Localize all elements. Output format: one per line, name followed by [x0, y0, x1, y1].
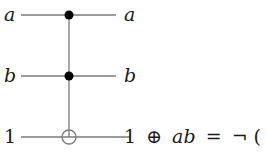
- toffoli-circuit: a b 1 a b 1 ⊕ ab = ¬ ( ab ): [0, 0, 266, 159]
- output-label-a: a: [124, 3, 135, 25]
- output-label-b: b: [124, 64, 136, 86]
- output-eq: =: [206, 125, 222, 147]
- output-oplus: ⊕: [146, 125, 162, 147]
- input-label-a: a: [4, 3, 15, 25]
- output-paren-open: (: [254, 125, 261, 147]
- input-label-b: b: [4, 64, 16, 86]
- control-dot-a: [65, 11, 74, 20]
- output-label-target: 1 ⊕ ab = ¬ ( ab ): [124, 125, 266, 147]
- control-dot-b: [65, 72, 74, 81]
- output-neg: ¬: [232, 125, 248, 147]
- input-label-1: 1: [4, 125, 16, 147]
- output-one: 1: [124, 125, 136, 147]
- output-ab: ab: [172, 125, 196, 147]
